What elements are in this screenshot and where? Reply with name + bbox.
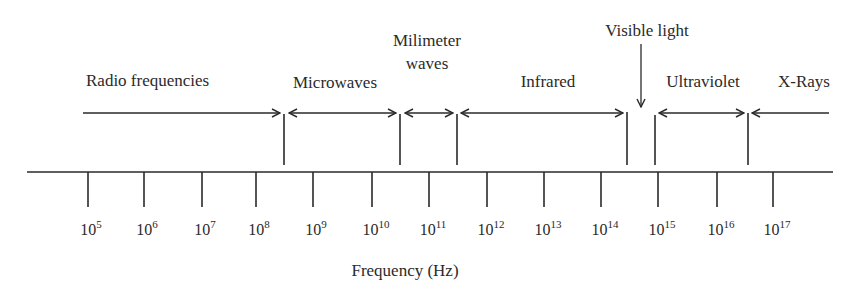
axis-title: Frequency (Hz) xyxy=(351,262,458,279)
band-label-radio: Radio frequencies xyxy=(86,72,209,89)
tick-label: 106 xyxy=(136,222,158,238)
tick-label: 1016 xyxy=(708,222,735,238)
tick-label: 107 xyxy=(194,222,216,238)
tick-label: 105 xyxy=(80,222,102,238)
tick-label: 1014 xyxy=(592,222,619,238)
band-label-visible-light: Visible light xyxy=(605,22,689,39)
band-label-xrays: X-Rays xyxy=(778,73,830,90)
band-label-milimeter-line2: waves xyxy=(406,55,448,72)
tick-label: 108 xyxy=(248,222,270,238)
tick-label: 109 xyxy=(305,222,327,238)
band-label-infrared: Infrared xyxy=(521,73,576,90)
band-boundaries xyxy=(284,112,748,165)
tick-label: 1013 xyxy=(535,222,562,238)
tick-label: 1015 xyxy=(649,222,676,238)
band-label-ultraviolet: Ultraviolet xyxy=(666,73,740,90)
band-label-microwaves: Microwaves xyxy=(293,74,377,91)
tick-label: 1017 xyxy=(764,222,791,238)
band-label-milimeter-line1: Milimeter xyxy=(393,32,461,49)
tick-label: 1010 xyxy=(363,222,390,238)
tick-label: 1012 xyxy=(478,222,505,238)
axis-ticks xyxy=(88,172,773,207)
tick-label: 1011 xyxy=(420,222,447,238)
